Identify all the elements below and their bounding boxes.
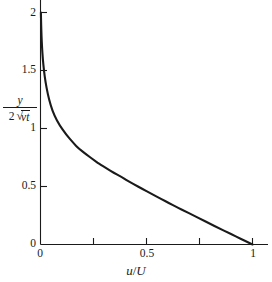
chart-plot-area <box>0 0 272 282</box>
x-axis-label-denominator: U <box>136 263 145 278</box>
y-axis-label: y 2νt <box>2 94 38 123</box>
figure-canvas: 2 1.5 1 0.5 0 0 0.5 1 y 2νt u/U <box>0 0 272 282</box>
y-axis-label-radicand: νt <box>21 110 30 123</box>
x-axis-ticks <box>94 238 253 245</box>
y-tick-label-2: 2 <box>12 7 36 19</box>
y-axis-label-numerator: y <box>2 94 38 106</box>
x-tick-label-0: 0 <box>28 248 52 260</box>
y-tick-label-1p5: 1.5 <box>8 64 36 76</box>
t-symbol: t <box>26 111 29 123</box>
fraction-bar <box>3 107 37 108</box>
data-curve-erfc <box>41 13 253 245</box>
y-tick-label-1: 1 <box>12 122 36 134</box>
x-tick-label-0p5: 0.5 <box>133 248 161 260</box>
x-axis-label: u/U <box>0 263 272 279</box>
y-axis-label-denominator: 2νt <box>2 109 38 123</box>
y-tick-label-0p5: 0.5 <box>8 180 36 192</box>
x-tick-label-1: 1 <box>241 248 265 260</box>
square-root-icon: νt <box>14 109 31 123</box>
